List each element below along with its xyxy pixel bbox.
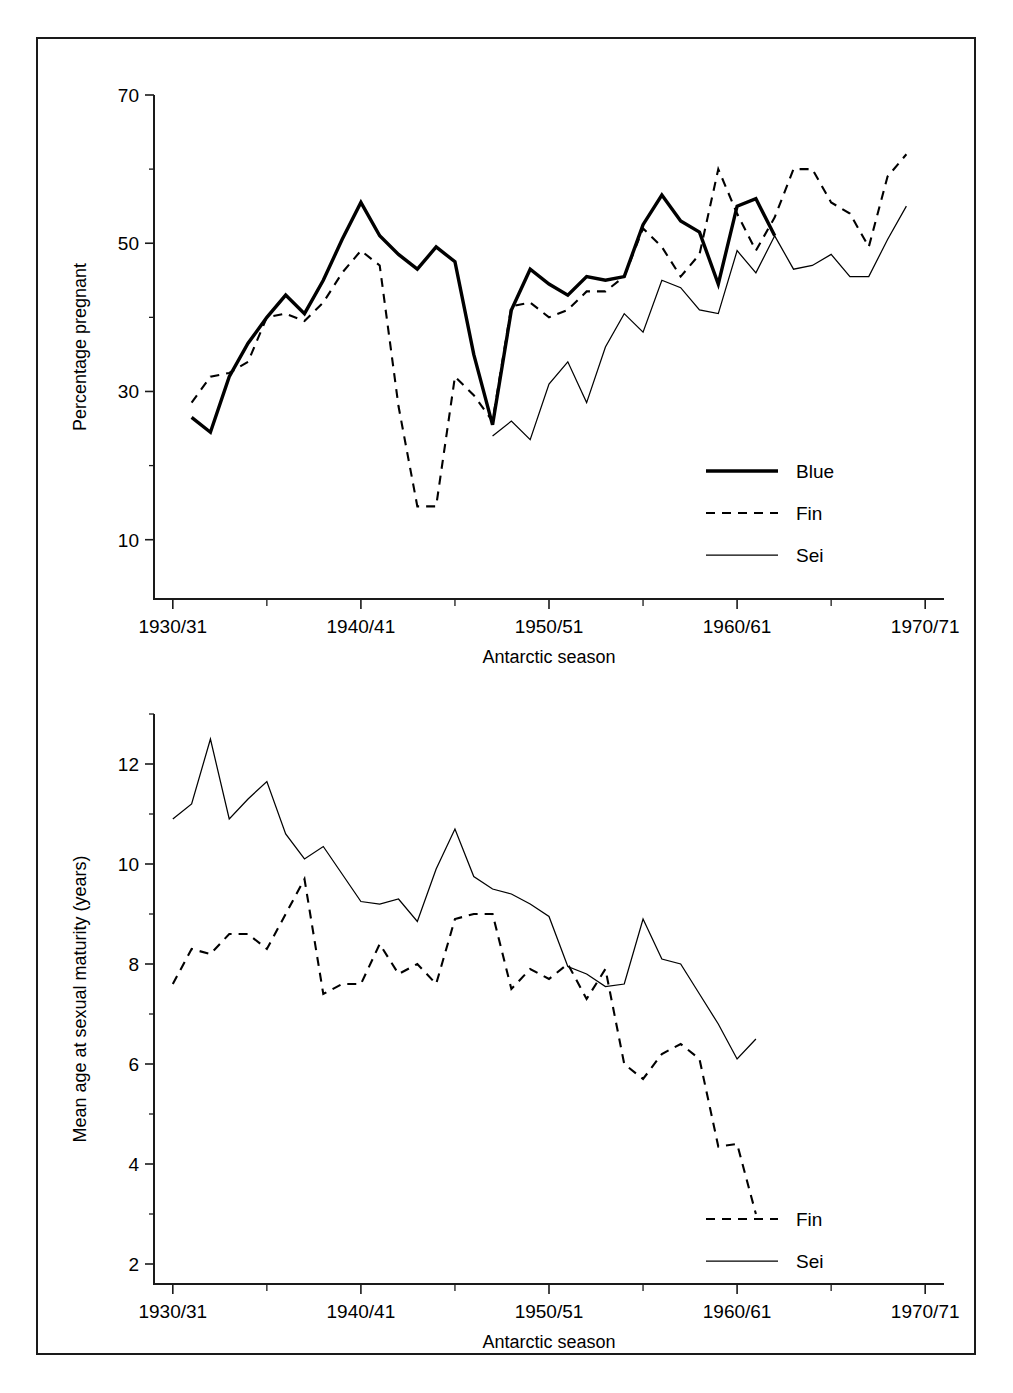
- y-tick-label: 70: [118, 85, 139, 106]
- legend-label-sei: Sei: [796, 1251, 823, 1272]
- x-tick-label: 1960/61: [703, 1301, 772, 1322]
- x-tick-label: 1940/41: [327, 616, 396, 637]
- figure-frame: 103050701930/311940/411950/511960/611970…: [36, 37, 976, 1355]
- x-tick-label: 1960/61: [703, 616, 772, 637]
- x-tick-label: 1970/71: [891, 1301, 960, 1322]
- legend-label-fin: Fin: [796, 1209, 822, 1230]
- y-tick-label: 50: [118, 233, 139, 254]
- series-group: [192, 154, 907, 506]
- chart-bottom-svg: 246810121930/311940/411950/511960/611970…: [38, 659, 978, 1349]
- x-axis-title: Antarctic season: [482, 1332, 615, 1352]
- axis-lines: [154, 714, 944, 1284]
- y-tick-label: 10: [118, 854, 139, 875]
- legend-label-sei: Sei: [796, 545, 823, 566]
- axis-lines: [154, 95, 944, 599]
- chart-percentage-pregnant: 103050701930/311940/411950/511960/611970…: [38, 39, 978, 659]
- legend-label-fin: Fin: [796, 503, 822, 524]
- legend: FinSei: [706, 1209, 823, 1272]
- x-tick-label: 1950/51: [515, 1301, 584, 1322]
- y-tick-label: 4: [128, 1154, 139, 1175]
- y-tick-label: 8: [128, 954, 139, 975]
- chart-mean-age-sexual-maturity: 246810121930/311940/411950/511960/611970…: [38, 659, 978, 1349]
- y-axis-title: Mean age at sexual maturity (years): [70, 855, 90, 1142]
- chart-top-svg: 103050701930/311940/411950/511960/611970…: [38, 39, 978, 659]
- series-line-sei: [493, 206, 907, 439]
- series-line-sei: [173, 739, 756, 1059]
- legend: BlueFinSei: [706, 461, 834, 566]
- series-line-fin: [173, 879, 756, 1214]
- series-line-blue: [192, 195, 775, 432]
- axes: 103050701930/311940/411950/511960/611970…: [118, 85, 960, 637]
- legend-label-blue: Blue: [796, 461, 834, 482]
- y-tick-label: 12: [118, 754, 139, 775]
- y-tick-label: 6: [128, 1054, 139, 1075]
- x-tick-label: 1930/31: [138, 1301, 207, 1322]
- y-tick-label: 10: [118, 530, 139, 551]
- series-line-fin: [192, 154, 907, 506]
- y-tick-label: 30: [118, 381, 139, 402]
- x-tick-label: 1950/51: [515, 616, 584, 637]
- axes: 246810121930/311940/411950/511960/611970…: [118, 714, 960, 1322]
- x-tick-label: 1940/41: [327, 1301, 396, 1322]
- x-tick-label: 1930/31: [138, 616, 207, 637]
- x-tick-label: 1970/71: [891, 616, 960, 637]
- series-group: [173, 739, 756, 1214]
- y-axis-title: Percentage pregnant: [70, 263, 90, 431]
- y-tick-label: 2: [128, 1254, 139, 1275]
